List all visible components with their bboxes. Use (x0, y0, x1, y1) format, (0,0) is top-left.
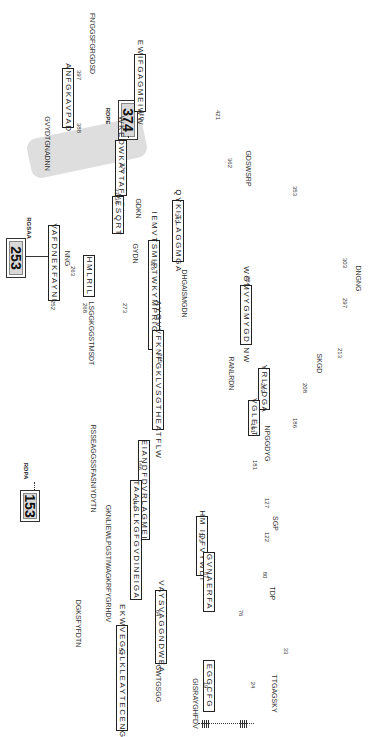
num-376: 376 (120, 163, 126, 173)
loop-326-331: GYDN (132, 243, 139, 263)
num-64: 64 (155, 610, 161, 617)
loop-nterm: GWTGSGG (155, 665, 162, 702)
num-268: 268 (82, 303, 88, 313)
callout-374-tag: RDPE (105, 108, 111, 125)
loop-297-303: DNGNG (355, 265, 362, 291)
loop-top: LSGGKGGSTMSDT (88, 302, 95, 366)
strand-284-297: WGMVYGMYGDINW (240, 285, 252, 345)
num-263: 263 (70, 266, 76, 276)
num-191: 191 (250, 423, 256, 433)
strand-342-353: QYKITLAGGMGA (172, 200, 184, 262)
num-297: 297 (342, 298, 348, 308)
num-113: 113 (198, 532, 204, 542)
num-24: 24 (250, 682, 256, 689)
strand-268-273: HMLRIL (83, 255, 95, 297)
loop-273-284: DHGAISMGDN (181, 269, 188, 317)
num-303: 303 (342, 258, 348, 268)
num-353: 353 (292, 186, 298, 196)
num-284: 284 (245, 276, 251, 286)
loop-181-191: NPGGDYG (264, 426, 271, 462)
num-80: 80 (262, 572, 268, 579)
strand-64-76: VAYSVAGGNDWEA (155, 590, 167, 664)
num-53: 53 (118, 648, 124, 655)
loop-76-80: TDP (269, 587, 276, 601)
callout-253-connector (26, 256, 48, 257)
strand-252-263: VAFDNEKFAYNI (48, 225, 60, 301)
num-208: 208 (302, 383, 308, 393)
num-33: 33 (283, 648, 289, 655)
strand-235-213: AYGVVFKNFGKLVSGTHEATFLW (152, 330, 164, 430)
strand-410-421: EWIFGAGMEIWW (134, 54, 146, 112)
num-181: 181 (252, 460, 258, 470)
callout-253: 253 (6, 238, 26, 278)
loop-87-113: GKNLIEWLPGSTIWAGKRFYGRHDV (105, 505, 112, 623)
num-235: 235 (157, 353, 163, 363)
callout-153: 153 (20, 490, 40, 522)
num-326: 326 (150, 260, 156, 270)
num-186: 186 (292, 418, 298, 428)
num-166: 166 (137, 460, 143, 470)
num-122: 122 (264, 532, 270, 542)
loop-53-64: DGKSFYFDTN (75, 600, 82, 647)
loop-122-127: SGP (272, 516, 279, 531)
membrane-marker (198, 720, 254, 728)
loop-24-33: TTGAGSKY (271, 674, 278, 712)
callout-374-connector (128, 136, 129, 140)
loop-376-388: GVYDTGNADNN (44, 116, 51, 170)
num-421: 421 (215, 110, 221, 120)
loop-263-268: NNG (64, 251, 71, 267)
loop-397-410: FN'GGSFGRGDSD (89, 13, 96, 74)
loop-144-166: RSSEAGGSSFASNIYDYTN (90, 425, 97, 513)
num-410: 410 (139, 110, 145, 120)
num-336: 336 (114, 194, 120, 204)
strand-87-80: GVNAERFA (203, 552, 215, 612)
num-342: 342 (174, 213, 180, 223)
num-388: 388 (76, 123, 82, 133)
callout-153-connector (34, 482, 35, 490)
num-397: 397 (76, 70, 82, 80)
num-273: 273 (122, 303, 128, 313)
callout-253-tag: RGSAA (26, 217, 32, 239)
num-362: 362 (227, 158, 233, 168)
strand-388-397: ANFGKAVPAD (62, 68, 74, 128)
strand-53-33: EKWVEGGLKLEAYTECENGLR (116, 625, 128, 731)
num-202: 202 (260, 383, 266, 393)
num-19: 19 (203, 682, 209, 689)
callout-153-tag: RDPA (23, 463, 29, 480)
loop-208-213: SKGD (316, 354, 323, 374)
num-252: 252 (50, 300, 56, 310)
num-76: 76 (238, 610, 244, 617)
loop-336-342: GDKN (135, 198, 142, 218)
num-127: 127 (264, 498, 270, 508)
loop-353-362: GDSWSRP (245, 150, 252, 186)
num-87: 87 (203, 572, 209, 579)
num-144: 144 (132, 498, 138, 508)
num-213: 213 (337, 348, 343, 358)
loop-191-202: RANLRDN (228, 357, 235, 391)
